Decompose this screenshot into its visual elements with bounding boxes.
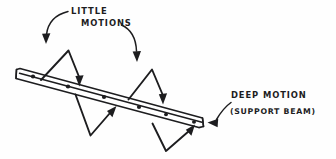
deep-motion-zigzag-lower-right [153, 124, 196, 152]
beam-node-dot [192, 120, 196, 124]
arrowhead-up-icon [186, 125, 195, 136]
leader-arrow-little-motions-left [42, 12, 68, 45]
arrowhead-down-icon [42, 33, 50, 44]
leader-curve [122, 25, 137, 51]
leader-arrow-deep-motion [208, 103, 232, 128]
arrowhead-down-icon [133, 51, 141, 62]
label-support-beam: (SUPPORT BEAM) [230, 107, 316, 116]
sketch-canvas: LITTLE MOTIONS DEEP MOTION (SUPPORT BEAM… [0, 0, 336, 159]
leader-arrow-little-motions-right [122, 25, 142, 62]
beam-right-end-cap [203, 118, 204, 127]
zigzag-stroke [129, 70, 164, 100]
arrowhead-down-icon [159, 93, 167, 104]
beam-node-dot [137, 105, 141, 109]
beam-left-end-cap [16, 70, 17, 79]
arrowhead-left-icon [208, 119, 219, 127]
beam-node-dot [31, 75, 35, 79]
label-little-motions-line2: MOTIONS [81, 18, 132, 28]
beam-node-dot [102, 95, 106, 99]
zigzag-stroke [153, 124, 190, 152]
diagram-svg: LITTLE MOTIONS DEEP MOTION (SUPPORT BEAM… [0, 0, 336, 159]
leader-curve [217, 103, 232, 120]
label-deep-motion-line1: DEEP MOTION [231, 90, 307, 100]
beam-node-dot [164, 113, 168, 117]
leader-curve [47, 12, 69, 35]
beam-node-dot [66, 85, 70, 89]
label-little-motions-line1: LITTLE [71, 6, 108, 16]
